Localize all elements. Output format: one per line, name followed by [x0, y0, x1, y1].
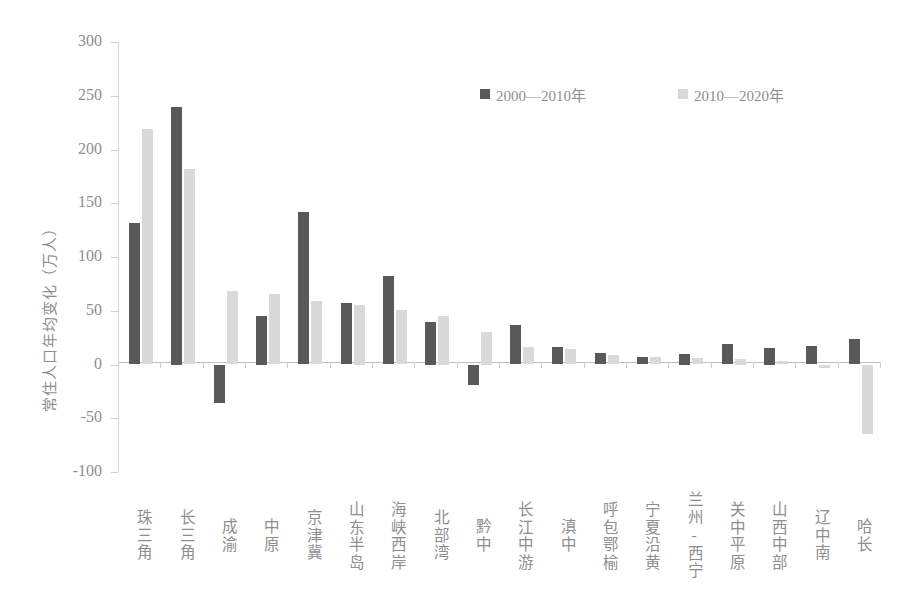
bar-group: [294, 42, 336, 472]
bar-group: [675, 42, 717, 472]
bar-chart: 常住人口年均变化（万人） 300250200150100500-50-100 2…: [0, 0, 901, 595]
bar: [227, 291, 238, 364]
x-axis-label: 海峡西岸: [380, 478, 406, 593]
x-axis-label: 哈长: [846, 478, 872, 593]
y-axis-tick-label: 300: [56, 33, 102, 49]
bar: [819, 365, 830, 368]
x-axis-label: 长三角: [169, 478, 195, 593]
legend-swatch-icon: [480, 89, 490, 99]
bar-group: [845, 42, 887, 472]
x-axis-label: 成渝: [211, 478, 237, 593]
y-axis-tick: [111, 311, 118, 312]
x-axis-label: 山东半岛: [338, 478, 364, 593]
x-axis-label: 长江中游: [507, 478, 533, 593]
x-axis-label: 呼包鄂榆: [592, 478, 618, 593]
legend-swatch-icon: [678, 89, 688, 99]
bar-group: [421, 42, 463, 472]
legend-item: 2000—2010年: [480, 84, 586, 105]
bar: [722, 344, 733, 364]
y-axis-tick: [111, 257, 118, 258]
plot-area: 300250200150100500-50-100: [118, 42, 880, 472]
legend-item: 2010—2020年: [678, 84, 784, 105]
bar: [184, 169, 195, 365]
bar: [692, 358, 703, 364]
bar: [425, 322, 436, 365]
bar: [862, 365, 873, 435]
bar-group: [167, 42, 209, 472]
y-axis-tick: [111, 96, 118, 97]
bar: [510, 325, 521, 365]
y-axis-tick: [111, 418, 118, 419]
y-axis-tick-label: -100: [56, 463, 102, 479]
bar: [354, 305, 365, 364]
y-axis-tick: [111, 203, 118, 204]
y-axis-tick-label: 100: [56, 248, 102, 264]
bar: [565, 349, 576, 364]
y-axis-tick: [111, 365, 118, 366]
bar: [777, 361, 788, 364]
x-axis-label: 兰州-西宁: [677, 478, 703, 593]
bar-group: [379, 42, 421, 472]
chart-legend: 2000—2010年2010—2020年: [480, 85, 784, 103]
bar-group: [760, 42, 802, 472]
bar: [764, 348, 775, 364]
y-axis-tick: [111, 42, 118, 43]
y-axis-tick: [111, 150, 118, 151]
x-axis-tick: [118, 362, 119, 368]
bar: [311, 301, 322, 364]
x-axis-label: 滇中: [550, 478, 576, 593]
bar: [298, 212, 309, 365]
bar: [679, 354, 690, 365]
bar-group: [506, 42, 548, 472]
bar: [142, 129, 153, 364]
bar: [341, 303, 352, 364]
bar: [129, 223, 140, 365]
x-axis-label: 辽中南: [804, 478, 830, 593]
bar: [608, 355, 619, 365]
bar-group: [591, 42, 633, 472]
bar-group: [337, 42, 379, 472]
bar-group: [464, 42, 506, 472]
x-axis-label: 北部湾: [423, 478, 449, 593]
y-axis-tick-label: 0: [56, 356, 102, 372]
x-axis-category-labels: 珠三角长三角成渝中原京津冀山东半岛海峡西岸北部湾黔中长江中游滇中呼包鄂榆宁夏沿黄…: [118, 478, 880, 595]
bar: [396, 310, 407, 365]
x-axis-label: 关中平原: [719, 478, 745, 593]
bar-group: [210, 42, 252, 472]
bar-group: [125, 42, 167, 472]
bar: [214, 365, 225, 404]
bar: [438, 316, 449, 364]
bar: [481, 332, 492, 364]
legend-label: 2000—2010年: [496, 84, 586, 105]
y-axis-tick-label: -50: [56, 409, 102, 425]
y-axis-tick-label: 50: [56, 302, 102, 318]
x-axis-label: 宁夏沿黄: [634, 478, 660, 593]
bar-group: [633, 42, 675, 472]
bar: [849, 339, 860, 365]
bar-group: [718, 42, 760, 472]
y-axis-line: [118, 42, 119, 472]
bar: [468, 365, 479, 385]
bar: [383, 276, 394, 364]
bar: [269, 294, 280, 365]
bar: [735, 359, 746, 364]
bar: [806, 346, 817, 364]
legend-label: 2010—2020年: [694, 84, 784, 105]
bar: [637, 357, 648, 365]
x-axis-label: 山西中部: [761, 478, 787, 593]
x-axis-label: 京津冀: [296, 478, 322, 593]
bar-group: [802, 42, 844, 472]
bar: [650, 357, 661, 365]
bar: [256, 316, 267, 364]
y-axis-tick-label: 250: [56, 87, 102, 103]
x-axis-label: 黔中: [465, 478, 491, 593]
y-axis-tick-label: 150: [56, 194, 102, 210]
y-axis-tick-label: 200: [56, 141, 102, 157]
bar-group: [252, 42, 294, 472]
bar-group: [548, 42, 590, 472]
y-axis-tick: [111, 472, 118, 473]
bar: [523, 347, 534, 364]
bar: [171, 107, 182, 365]
bar: [595, 353, 606, 365]
x-axis-label: 中原: [253, 478, 279, 593]
